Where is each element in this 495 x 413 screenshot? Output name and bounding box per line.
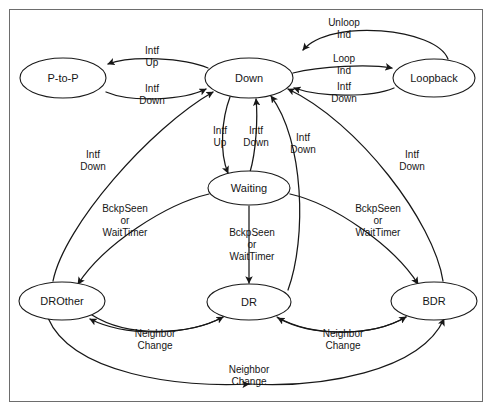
edge-bdr-to-down (288, 89, 443, 281)
state-label-p2p: P-to-P (47, 72, 78, 84)
edge-label-intf-up-left: IntfUp (145, 45, 159, 68)
edge-label-intf-down-left: IntfDown (139, 83, 165, 106)
edge-loopback-to-down (303, 30, 448, 59)
edge-drother-to-down (53, 92, 213, 281)
state-label-loopback: Loopback (410, 72, 458, 84)
ospf-interface-state-machine: P-to-P Down Loopback Waiting DROther DR (0, 0, 495, 413)
state-label-dr: DR (241, 296, 257, 308)
edge-label-bckpseen-right: BckpSeenorWaitTimer (355, 203, 401, 238)
edge-label-neighbor-change-right: NeighborChange (323, 328, 364, 351)
edge-label-neighbor-change-left: NeighborChange (135, 328, 176, 351)
state-node-down[interactable]: Down (205, 58, 293, 98)
state-node-loopback[interactable]: Loopback (393, 59, 475, 97)
state-diagram-figure: P-to-P Down Loopback Waiting DROther DR (0, 0, 495, 413)
state-node-bdr[interactable]: BDR (391, 282, 477, 320)
edge-label-loop-ind: LoopInd (333, 53, 356, 76)
state-label-bdr: BDR (422, 295, 445, 307)
edge-label-intf-down-far-left: IntfDown (80, 149, 106, 172)
state-node-dr[interactable]: DR (207, 284, 291, 320)
state-label-drother: DROther (40, 295, 84, 307)
state-node-drother[interactable]: DROther (19, 282, 105, 320)
edge-label-intf-down-center: IntfDown (243, 125, 269, 148)
state-label-waiting: Waiting (231, 182, 267, 194)
state-node-p2p[interactable]: P-to-P (20, 58, 106, 98)
state-node-waiting[interactable]: Waiting (208, 171, 290, 205)
edge-label-neighbor-change-bottom: NeighborChange (229, 364, 270, 387)
edge-label-intf-down-right-top: IntfDown (331, 81, 357, 104)
state-label-down: Down (235, 72, 263, 84)
edge-label-bckpseen-left: BckpSeenorWaitTimer (102, 203, 148, 238)
nodes-layer: P-to-P Down Loopback Waiting DROther DR (19, 58, 477, 320)
edge-label-intf-down-inner: IntfDown (290, 132, 316, 155)
edge-label-unloop-ind: UnloopInd (328, 17, 360, 40)
edge-label-intf-up-center: IntfUp (213, 125, 227, 148)
edge-label-intf-down-far-right: IntfDown (399, 149, 425, 172)
edge-label-bckpseen-center: BckpSeenorWaitTimer (229, 227, 275, 262)
